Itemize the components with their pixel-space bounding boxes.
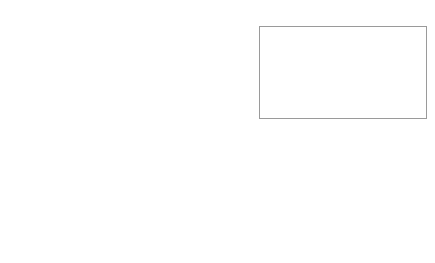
chart-container: [0, 0, 435, 263]
chart-legend: [259, 26, 427, 119]
